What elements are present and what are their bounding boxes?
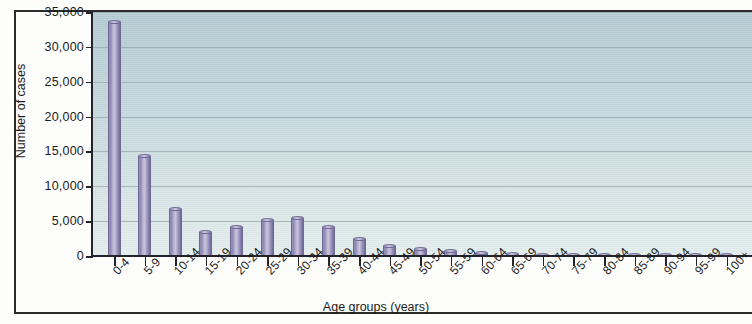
y-axis-tick-label: 25,000 [45, 75, 84, 89]
y-axis-tick-mark [86, 256, 93, 258]
plot-paper-texture [92, 12, 752, 256]
y-axis-tick-label: 10,000 [45, 179, 84, 193]
y-axis-tick-label: 0 [77, 249, 84, 263]
bar [291, 218, 304, 256]
y-axis-tick-mark [86, 221, 93, 223]
gridline [92, 12, 752, 13]
x-axis-title: Age groups (years) [0, 300, 752, 314]
gridline [92, 117, 752, 118]
bar [169, 209, 182, 256]
bar [138, 156, 151, 256]
bar [108, 22, 121, 256]
y-axis-tick-mark [86, 47, 93, 49]
y-axis-tick-label: 20,000 [45, 110, 84, 124]
gridline [92, 47, 752, 48]
y-axis-tick-mark [86, 82, 93, 84]
y-axis-tick-mark [86, 186, 93, 188]
y-axis-title: Number of cases [14, 51, 28, 171]
y-axis-tick-label: 35,000 [45, 5, 84, 19]
gridline [92, 186, 752, 187]
y-axis-tick-mark [86, 12, 93, 14]
gridline [92, 151, 752, 152]
plot-area [92, 12, 752, 256]
y-axis-tick-label: 15,000 [45, 144, 84, 158]
y-axis-tick-label: 5,000 [52, 214, 84, 228]
chart-page: 05,00010,00015,00020,00025,00030,00035,0… [0, 0, 752, 324]
gridline [92, 221, 752, 222]
y-axis-tick-labels: 05,00010,00015,00020,00025,00030,00035,0… [0, 0, 84, 324]
y-axis-tick-mark [86, 117, 93, 119]
y-axis-tick-mark [86, 151, 93, 153]
bar [261, 220, 274, 256]
y-axis-tick-label: 30,000 [45, 40, 84, 54]
gridline [92, 82, 752, 83]
